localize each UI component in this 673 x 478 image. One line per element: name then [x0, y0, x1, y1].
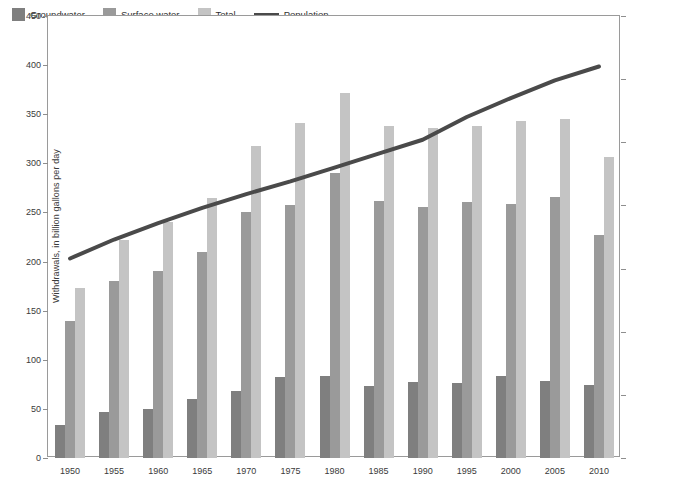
y-axis-right-tick-mark: [621, 205, 626, 206]
x-axis-tick-label: 1985: [357, 466, 401, 476]
y-axis-right-tick-mark: [621, 16, 626, 17]
y-axis-left-tick-label: 250: [15, 207, 41, 217]
y-axis-left-tick-mark: [43, 458, 48, 459]
population-line-layer: [48, 16, 621, 458]
y-axis-left-tick-label: 200: [15, 257, 41, 267]
y-axis-right-tick-mark: [621, 142, 626, 143]
x-axis-tick-label: 1950: [48, 466, 92, 476]
x-axis-tick-label: 1970: [224, 466, 268, 476]
y-axis-left-tick-label: 300: [15, 158, 41, 168]
x-axis-tick-label: 1990: [401, 466, 445, 476]
x-axis-tick-label: 1965: [180, 466, 224, 476]
chart-figure: GroundwaterSurface waterTotalPopulation …: [0, 0, 673, 478]
x-axis-tick-label: 1995: [445, 466, 489, 476]
x-axis-tick-label: 2000: [489, 466, 533, 476]
y-axis-left-tick-label: 50: [15, 404, 41, 414]
x-axis-tick-label: 2010: [577, 466, 621, 476]
y-axis-left-tick-label: 450: [15, 11, 41, 21]
population-line[interactable]: [70, 67, 599, 259]
x-axis-tick-label: 1960: [136, 466, 180, 476]
y-axis-left-tick-label: 350: [15, 109, 41, 119]
x-axis-tick-label: 1980: [313, 466, 357, 476]
y-axis-right-tick-mark: [621, 395, 626, 396]
x-axis-tick-label: 2005: [533, 466, 577, 476]
y-axis-left-tick-label: 100: [15, 355, 41, 365]
y-axis-left-tick-label: 150: [15, 306, 41, 316]
y-axis-right-tick-mark: [621, 332, 626, 333]
x-axis-tick-label: 1975: [268, 466, 312, 476]
y-axis-left-tick-label: 0: [15, 453, 41, 463]
population-line-svg: [48, 16, 621, 458]
y-axis-right-tick-mark: [621, 458, 626, 459]
y-axis-right-tick-mark: [621, 269, 626, 270]
y-axis-right-tick-mark: [621, 79, 626, 80]
x-axis-tick-label: 1955: [92, 466, 136, 476]
plot-area: Withdrawals, in billion gallons per day …: [47, 15, 620, 457]
y-axis-left-tick-label: 400: [15, 60, 41, 70]
